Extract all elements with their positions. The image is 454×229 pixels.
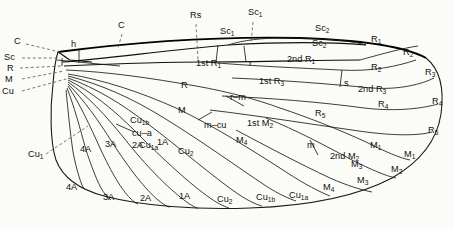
- leader-radius: [20, 66, 62, 68]
- cubitus-2-margin-subscript: 2: [229, 198, 233, 205]
- radius-2-cell-subscript: 2: [378, 66, 382, 73]
- subcosta-2-top-label: Sc2: [315, 23, 330, 34]
- radius-4-cell-subscript: 4: [385, 103, 389, 110]
- media-4-cell-subscript: 4: [244, 139, 248, 146]
- humeral-crossvein-label: h: [71, 39, 76, 49]
- leader-subcosta-1: [251, 22, 253, 44]
- subcosta-label: Sc: [4, 52, 15, 62]
- radius-1-margin-subscript: 1: [378, 38, 382, 45]
- cubitus-1-base-subscript: 1: [40, 153, 44, 160]
- radius-4-margin-label: R4: [432, 96, 443, 107]
- radial-sector-label: Rs: [190, 10, 202, 20]
- radius-4-cell-label: R4: [378, 99, 389, 110]
- cubitus-2-margin-label: Cu2: [217, 194, 233, 205]
- m-crossvein-label: m: [307, 140, 315, 150]
- s-crossvein-label: s: [344, 78, 349, 88]
- anal-3-margin-label: 3A: [103, 192, 115, 202]
- second-m2-cell-subscript: 2: [356, 155, 360, 162]
- second-r3-cell-subscript: 3: [383, 88, 387, 95]
- radius-5-cell-label: R5: [315, 108, 326, 119]
- radius-cell-label: R: [181, 80, 188, 90]
- cubitus-2-cell-subscript: 2: [190, 150, 194, 157]
- media-1-margin-label: M1: [404, 149, 416, 160]
- anal-4-margin-label: 4A: [66, 182, 78, 192]
- first-r3-cell-subscript: 3: [280, 80, 284, 87]
- subcosta-2-lower-subscript: 2: [323, 42, 327, 49]
- second-r1-cell-subscript: 1: [312, 58, 316, 65]
- anal-1-cell-label: 1A: [157, 137, 169, 147]
- media-4-cell-label: M4: [236, 135, 248, 146]
- subcosta-1-top-subscript: 1: [259, 11, 263, 18]
- cubitus-1a-margin-subscript: 1a: [301, 194, 309, 201]
- cubitus-label: Cu: [2, 86, 14, 96]
- rm-crossvein-label: r–m: [230, 92, 246, 102]
- s-crossvein-line: [340, 70, 342, 87]
- radius-4-margin-subscript: 4: [439, 100, 443, 107]
- second-r3-cell-label: 2nd R3: [358, 84, 387, 95]
- first-r3-cell-label: 1st R3: [259, 76, 284, 87]
- radius-3-margin-subscript: 3: [432, 71, 436, 78]
- media-2-margin-subscript: 2: [399, 168, 403, 175]
- cubitus-1a-margin-label: Cu1a: [289, 190, 308, 201]
- media-1-cell-subscript: 1: [378, 144, 382, 151]
- radius-2-margin-label: R2: [403, 47, 414, 58]
- subcosta-2-top-subscript: 2: [326, 27, 330, 34]
- anal-2-margin-label: 2A: [140, 193, 152, 203]
- radius-5-margin-label: R5: [428, 125, 439, 136]
- media-2-margin-label: M2: [391, 164, 403, 175]
- wing-venation-diagram: CScRMCu ChRsSc1Sc1Sc2Sc2R1R2R2R3R4R4R5R5…: [0, 0, 454, 229]
- cubitus-1b-margin-subscript: 1b: [268, 196, 276, 203]
- media-cell-label: M: [178, 105, 186, 115]
- media-3-margin-subscript: 3: [365, 179, 369, 186]
- anal-4-cell-label: 4A: [80, 144, 92, 154]
- costa-label: C: [14, 36, 21, 46]
- cubitus-1b-margin-label: Cu1b: [256, 192, 275, 203]
- anal-3-cell-label: 3A: [105, 139, 117, 149]
- first-r1-cell-subscript: 1: [217, 62, 221, 69]
- cubitus-1b-cell-subscript: 1b: [142, 119, 150, 126]
- media-label: M: [5, 74, 13, 84]
- anal-1-margin-label: 1A: [179, 191, 191, 201]
- r-crossvein-line: [244, 46, 246, 62]
- second-m2-cell-label: 2nd M2: [330, 151, 360, 162]
- radius-5-cell-subscript: 5: [322, 112, 326, 119]
- base-vein-labels: CScRMCu: [2, 36, 21, 96]
- first-r1-cell-label: 1st R1: [196, 58, 221, 69]
- subcosta-1-upper-subscript: 1: [231, 30, 235, 37]
- media-4-margin-label: M4: [323, 182, 335, 193]
- subcosta-1-upper-label: Sc1: [220, 26, 235, 37]
- anal-2-cell-label: 2A: [132, 140, 144, 150]
- cubitus-1b-cell-label: Cu1b: [130, 115, 149, 126]
- radius-5-margin-subscript: 5: [435, 129, 439, 136]
- leader-costa: [26, 44, 60, 52]
- radius-3-margin-label: R3: [425, 67, 436, 78]
- second-r1-cell-label: 2nd R1: [287, 54, 316, 65]
- media-3-margin-label: M3: [357, 175, 369, 186]
- vein-labels: ChRsSc1Sc1Sc2Sc2R1R2R2R3R4R4R5R5RMM1M1M2…: [28, 7, 443, 205]
- media-1-margin-subscript: 1: [412, 153, 416, 160]
- leader-radial-sector: [196, 24, 198, 60]
- first-m2-cell-subscript: 2: [269, 122, 273, 129]
- radius-2-cell-label: R2: [371, 62, 382, 73]
- subcosta-1-top-label: Sc1: [248, 7, 263, 18]
- radius-1-margin-label: R1: [371, 34, 382, 45]
- r-crossvein-label: r: [249, 58, 252, 68]
- costa-mid-label: C: [118, 20, 125, 30]
- cubitus-2-cell-label: Cu2: [178, 146, 194, 157]
- mcu-crossvein-line: [198, 112, 212, 120]
- leader-cubitus: [22, 79, 66, 91]
- media-1-cell-label: M1: [370, 140, 382, 151]
- mcu-crossvein-label: m–cu: [204, 120, 226, 130]
- radius-2-margin-subscript: 2: [410, 51, 414, 58]
- cua-crossvein-label: cu–a: [132, 128, 153, 138]
- cubitus-1-base-label: Cu1: [28, 149, 44, 160]
- media-3-cell-subscript: 3: [359, 163, 363, 170]
- leader-media: [22, 71, 64, 79]
- media-4-margin-subscript: 4: [331, 186, 335, 193]
- radius-label: R: [7, 63, 14, 73]
